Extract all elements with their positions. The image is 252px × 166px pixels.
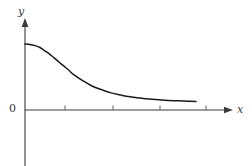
axes-group [22, 18, 233, 166]
plot-canvas [0, 0, 252, 166]
y-axis-label: y [18, 6, 24, 17]
coordinate-plot-figure: y x 0 [0, 0, 252, 166]
x-axis-arrowhead [224, 107, 233, 114]
decay-curve-path [25, 44, 196, 102]
origin-label: 0 [9, 103, 16, 114]
x-axis-label: x [237, 104, 243, 115]
x-axis-ticks-group [65, 106, 206, 111]
y-axis-arrowhead [22, 18, 29, 27]
